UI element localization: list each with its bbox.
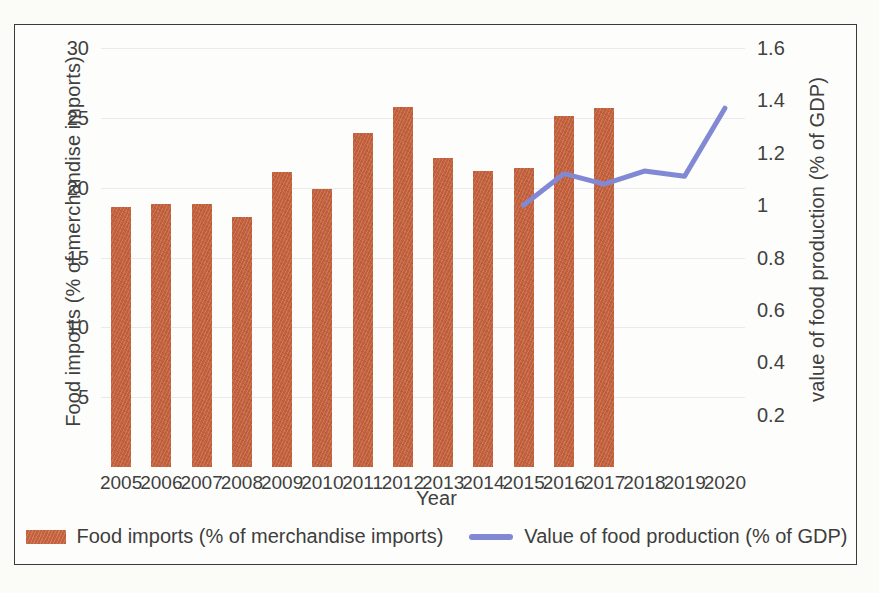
legend-item-value-of-food-production[interactable]: Value of food production (% of GDP) (469, 525, 847, 548)
chart-legend: Food imports (% of merchandise imports) … (15, 525, 858, 548)
plot-area: 510152025300.20.40.60.811.21.41.62005200… (101, 48, 745, 467)
x-axis-tick-2020: 2020 (702, 473, 748, 492)
y-axis-right-tick: 1.2 (757, 143, 827, 163)
y-axis-right-tick: 1.4 (757, 90, 827, 110)
y-axis-right-tick: 1.6 (757, 38, 827, 58)
legend-item-food-imports[interactable]: Food imports (% of merchandise imports) (26, 525, 444, 548)
line-swatch-icon (469, 534, 513, 540)
chart-frame: Food imports (% of merchandise imports) … (14, 24, 857, 565)
y-axis-left-tick: 15 (19, 248, 89, 268)
y-axis-left-tick: 25 (19, 108, 89, 128)
legend-label-food-imports: Food imports (% of merchandise imports) (77, 525, 444, 548)
y-axis-left-tick: 10 (19, 317, 89, 337)
line-path[interactable] (524, 108, 725, 205)
bar-swatch-icon (26, 530, 66, 544)
y-axis-left-tick: 20 (19, 178, 89, 198)
y-axis-right-tick: 1 (757, 195, 827, 215)
line-series-value-of-food-production (101, 48, 745, 467)
y-axis-right-tick: 0.6 (757, 300, 827, 320)
y-axis-left-tick: 30 (19, 38, 89, 58)
y-axis-right-tick: 0.4 (757, 352, 827, 372)
y-axis-right-tick: 0.8 (757, 248, 827, 268)
y-axis-right-tick: 0.2 (757, 405, 827, 425)
chart-page: Food imports (% of merchandise imports) … (0, 0, 879, 593)
legend-label-value-of-food-production: Value of food production (% of GDP) (524, 525, 847, 548)
y-axis-left-tick: 5 (19, 387, 89, 407)
